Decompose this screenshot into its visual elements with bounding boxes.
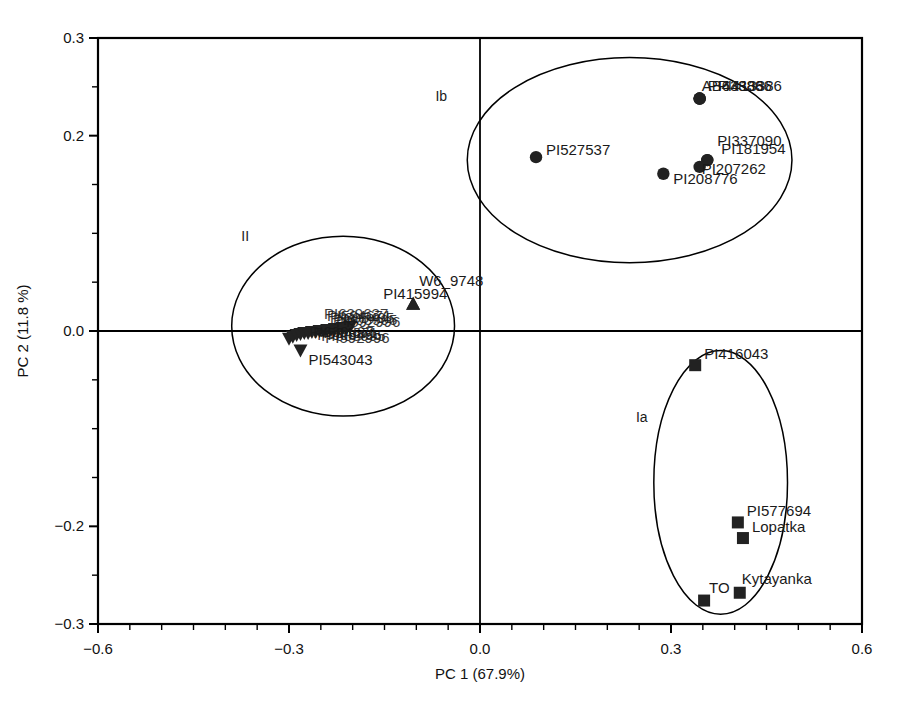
chart-page: PI643886PI413386AB43886PI527537PI337090P… [0, 0, 901, 711]
point-label: PI577694 [747, 502, 811, 519]
x-tick-label: −0.6 [83, 640, 113, 657]
y-axis-title: PC 2 (11.8 %) [14, 284, 31, 377]
y-tick-label: 0.2 [63, 127, 84, 144]
tick-labels: −0.6−0.30.00.30.6−0.3−0.20.00.20.3 [54, 29, 872, 657]
point-label: PI543043 [308, 351, 372, 368]
x-tick-label: 0.0 [470, 640, 491, 657]
point-label: TO [709, 579, 730, 596]
marker-circle [530, 151, 542, 163]
point-label: PI181954 [721, 140, 785, 157]
point-label: PI416043 [704, 345, 768, 362]
point-label: Kytayanka [742, 570, 813, 587]
y-tick-label: 0.0 [63, 322, 84, 339]
pca-scatter-plot: PI643886PI413386AB43886PI527537PI337090P… [0, 0, 901, 711]
marker-circle [693, 92, 705, 104]
group-labels: IbIaII [241, 88, 648, 424]
group-label-ib: Ib [435, 88, 447, 104]
x-tick-label: 0.6 [852, 640, 873, 657]
y-tick-label: −0.3 [54, 615, 84, 632]
x-tick-label: 0.3 [661, 640, 682, 657]
x-axis-title: PC 1 (67.9%) [435, 665, 525, 682]
point-label: PI415994 [383, 285, 447, 302]
point-label: AB43886 [702, 77, 764, 94]
marker-square [732, 516, 744, 528]
y-tick-label: −0.2 [54, 517, 84, 534]
marker-square [689, 359, 701, 371]
y-tick-label: 0.3 [63, 29, 84, 46]
marker-square [737, 532, 749, 544]
marker-triangle-down [293, 345, 307, 358]
point-label: PI527537 [546, 141, 610, 158]
marker-square [734, 587, 746, 599]
point-label: PI208776 [673, 170, 737, 187]
group-label-ia: Ia [636, 409, 648, 425]
group-label-ii: II [241, 228, 249, 244]
x-tick-label: −0.3 [274, 640, 304, 657]
point-label-overlapped: PI592996 [325, 329, 389, 346]
marker-square [698, 595, 710, 607]
point-label: Lopatka [752, 518, 806, 535]
marker-circle [657, 168, 669, 180]
